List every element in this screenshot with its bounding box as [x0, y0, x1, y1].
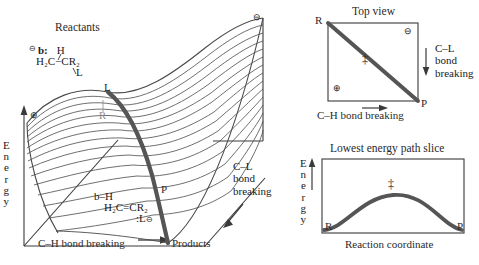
surface-right-edge: [168, 18, 263, 243]
product-structure: b–H H₂C=CR₂ :L⊖: [94, 190, 153, 224]
ligand-point-label: L: [104, 82, 111, 94]
product-line-leaving-group: :L: [136, 212, 146, 224]
main-energy-surface-plot: [0, 0, 300, 265]
surface-left-positive-charge: ⊕: [28, 110, 39, 121]
depth-label-line-0: C–L: [233, 160, 271, 172]
top-view-depth-axis-label: C–L bond breaking: [435, 42, 473, 79]
main-energy-axis-label: E n e r g y: [3, 140, 10, 207]
depth-axis-arrow: [223, 204, 243, 228]
top-view-depth-line-1: bond: [435, 54, 473, 66]
reactants-title: Reactants: [55, 21, 100, 33]
depth-label-line-2: breaking: [233, 185, 271, 197]
leaving-group-negative-charge: ⊖: [146, 216, 153, 224]
products-label: Products: [172, 238, 211, 250]
path-slice-end-label: P: [457, 221, 463, 233]
top-view-corner-R: R: [315, 15, 322, 27]
slice-energy-letter-2: e: [301, 180, 306, 191]
top-view-depth-line-2: breaking: [435, 67, 473, 79]
top-view-negative-charge: ⊖: [402, 26, 413, 37]
top-view-depth-arrow: [423, 48, 430, 76]
energy-letter-5: y: [4, 196, 10, 207]
slice-energy-letter-5: y: [301, 214, 307, 225]
path-slice-start-label: R: [325, 221, 332, 233]
path-slice-energy-arrow: [309, 158, 316, 190]
surface-back-right-negative-charge: ⊖: [251, 12, 262, 23]
top-view-corner-P: P: [421, 98, 427, 110]
figure-root: Reactants ⊖ b: H H₂C−CR₂ L b–H H₂C=CR₂ :…: [0, 0, 479, 265]
reactant-bond-ticks: [28, 44, 108, 84]
top-view-x-axis-label: C–H bond breaking: [317, 110, 404, 122]
top-view-transition-state: ‡: [362, 53, 368, 66]
main-depth-axis-label: C–L bond breaking: [233, 160, 271, 197]
top-view-positive-charge: ⊕: [331, 83, 342, 94]
reactant-point-label: R: [99, 110, 106, 121]
energy-letter-2: e: [4, 162, 9, 173]
path-slice-x-axis-label: Reaction coordinate: [345, 239, 433, 251]
surface-left-edge: [27, 123, 58, 233]
product-point-label: P: [161, 184, 167, 196]
energy-barrier-curve: [324, 195, 462, 230]
path-slice-energy-axis-label: E n e r g y: [300, 158, 307, 225]
path-slice-transition-state: ‡: [388, 178, 394, 191]
top-view-depth-line-0: C–L: [435, 42, 473, 54]
energy-axis-arrow: [21, 105, 28, 115]
main-x-axis-label: C–H bond breaking: [38, 238, 125, 250]
depth-label-line-1: bond: [233, 172, 271, 184]
